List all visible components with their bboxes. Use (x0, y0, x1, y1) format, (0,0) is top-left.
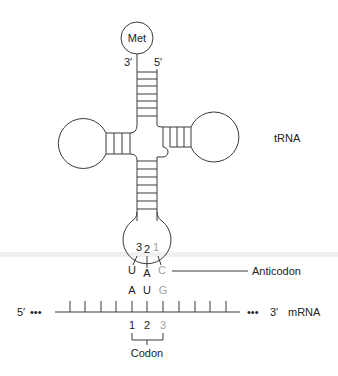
anticodon-base-u: U (128, 264, 136, 276)
codon-pos-2: 2 (144, 319, 150, 331)
anticodon-stem (137, 160, 157, 221)
trna-diagram: Met 3′ 5′ (0, 0, 338, 376)
anticodon-base-a: A (143, 267, 151, 279)
codon-pos-3: 3 (160, 319, 166, 331)
mrna-label: mRNA (288, 306, 321, 318)
codon-label: Codon (131, 347, 163, 359)
mrna-ellipsis-left: ••• (30, 306, 42, 318)
acceptor-5prime-label: 5′ (154, 56, 162, 68)
mrna-ellipsis-right: ••• (247, 306, 259, 318)
background-band (0, 252, 338, 257)
mrna-5prime-label: 5′ (17, 306, 25, 318)
codon-pos-1: 1 (129, 319, 135, 331)
acceptor-3prime-label: 3′ (124, 56, 132, 68)
anticodon-pos-2: 2 (144, 243, 150, 255)
mrna-3prime-label: 3′ (270, 306, 278, 318)
met-label: Met (128, 32, 146, 44)
anticodon-pos-3: 3 (136, 241, 142, 253)
anticodon-base-c: C (158, 264, 166, 276)
anticodon-pos-1: 1 (153, 241, 159, 253)
d-arm (58, 118, 137, 168)
trna-label: tRNA (274, 132, 301, 144)
anticodon-label: Anticodon (252, 265, 301, 277)
codon-base-g: G (159, 284, 168, 296)
t-psi-c-arm (157, 112, 239, 162)
codon-base-a: A (128, 284, 136, 296)
codon-base-u: U (143, 284, 151, 296)
mrna-strand (55, 301, 240, 312)
codon-bracket (132, 333, 163, 345)
amino-acid-met: Met (121, 22, 153, 54)
